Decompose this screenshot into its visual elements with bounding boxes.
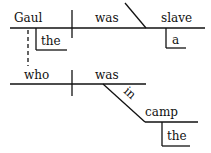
complement-slash <box>125 3 146 28</box>
word-was-2: was <box>95 68 119 82</box>
word-was: was <box>95 11 119 25</box>
word-slave: slave <box>161 11 192 25</box>
word-gaul: Gaul <box>14 11 42 25</box>
word-the-2: the <box>167 129 187 143</box>
word-a: a <box>172 33 179 47</box>
word-camp: camp <box>145 105 178 119</box>
word-in: in <box>121 84 139 102</box>
sentence-diagram: Gaul was slave the a who was in camp the <box>0 0 211 153</box>
word-the-1: the <box>41 34 61 48</box>
word-who: who <box>24 68 49 82</box>
